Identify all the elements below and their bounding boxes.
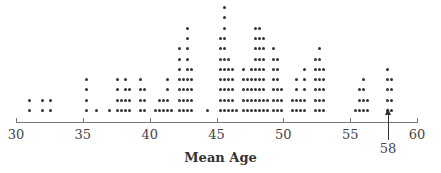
data-dot: [254, 109, 257, 112]
data-dot: [250, 88, 253, 91]
data-dot: [318, 88, 321, 91]
data-dot: [190, 109, 193, 112]
data-dot: [242, 68, 245, 71]
data-dot: [250, 99, 253, 102]
data-dot: [258, 78, 261, 81]
data-dot: [318, 99, 321, 102]
data-dot: [116, 109, 119, 112]
data-dot: [390, 99, 393, 102]
data-dot: [250, 68, 253, 71]
data-dot: [262, 109, 265, 112]
data-dot: [242, 109, 245, 112]
data-dot: [223, 88, 226, 91]
data-dot: [314, 58, 317, 61]
data-dot: [254, 78, 257, 81]
data-dot: [262, 58, 265, 61]
data-dot: [318, 78, 321, 81]
data-dot: [128, 109, 131, 112]
data-dot: [246, 78, 249, 81]
data-dot: [116, 78, 119, 81]
x-tick: [417, 118, 418, 123]
data-dot: [223, 47, 226, 50]
data-dot: [219, 88, 222, 91]
data-dot: [262, 68, 265, 71]
data-dot: [223, 27, 226, 30]
data-dot: [85, 78, 88, 81]
data-dot: [227, 58, 230, 61]
data-dot: [254, 58, 257, 61]
data-dot: [124, 78, 127, 81]
data-dot: [250, 109, 253, 112]
data-dot: [227, 68, 230, 71]
data-dot: [170, 109, 173, 112]
data-dot: [143, 99, 146, 102]
data-dot: [235, 109, 238, 112]
data-dot: [85, 109, 88, 112]
data-dot: [258, 58, 261, 61]
data-dot: [182, 99, 185, 102]
data-dot: [322, 78, 325, 81]
data-dot: [85, 88, 88, 91]
data-dot: [295, 78, 298, 81]
data-dot: [242, 78, 245, 81]
data-dot: [295, 109, 298, 112]
data-dot: [291, 109, 294, 112]
data-dot: [28, 109, 31, 112]
data-dot: [303, 68, 306, 71]
data-dot: [85, 99, 88, 102]
data-dot: [182, 109, 185, 112]
data-dot: [178, 88, 181, 91]
data-dot: [322, 88, 325, 91]
data-dot: [182, 78, 185, 81]
data-dot: [386, 99, 389, 102]
data-dot: [272, 58, 275, 61]
x-tick: [217, 118, 218, 123]
data-dot: [41, 109, 44, 112]
data-dot: [186, 58, 189, 61]
data-dot: [272, 99, 275, 102]
data-dot: [276, 68, 279, 71]
data-dot: [262, 47, 265, 50]
data-dot: [258, 37, 261, 40]
data-dot: [390, 88, 393, 91]
data-dot: [28, 99, 31, 102]
data-dot: [318, 47, 321, 50]
data-dot: [108, 109, 111, 112]
data-dot: [219, 109, 222, 112]
data-dot: [223, 99, 226, 102]
x-tick: [83, 118, 84, 123]
data-dot: [299, 109, 302, 112]
data-dot: [254, 88, 257, 91]
data-dot: [272, 88, 275, 91]
x-tick-label: 35: [75, 127, 92, 142]
data-dot: [314, 99, 317, 102]
annotation-arrow: [388, 113, 389, 140]
data-dot: [354, 109, 357, 112]
data-dot: [139, 109, 142, 112]
data-dot: [139, 99, 142, 102]
data-dot: [386, 88, 389, 91]
data-dot: [258, 27, 261, 30]
data-dot: [246, 88, 249, 91]
data-dot: [186, 37, 189, 40]
data-dot: [262, 88, 265, 91]
data-dot: [276, 109, 279, 112]
data-dot: [124, 88, 127, 91]
data-dot: [280, 109, 283, 112]
data-dot: [266, 109, 269, 112]
data-dot: [227, 109, 230, 112]
data-dot: [178, 109, 181, 112]
data-dot: [266, 99, 269, 102]
data-dot: [295, 99, 298, 102]
data-dot: [262, 37, 265, 40]
x-tick-label: 50: [275, 127, 292, 142]
data-dot: [246, 99, 249, 102]
x-tick: [350, 118, 351, 123]
data-dot: [166, 88, 169, 91]
data-dot: [262, 78, 265, 81]
data-dot: [178, 78, 181, 81]
data-dot: [49, 99, 52, 102]
data-dot: [186, 68, 189, 71]
data-dot: [276, 88, 279, 91]
data-dot: [254, 27, 257, 30]
